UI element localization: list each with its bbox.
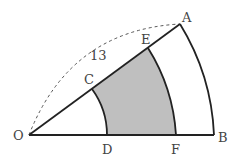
label-O: O <box>13 128 24 143</box>
label-A: A <box>181 10 192 25</box>
label-D: D <box>102 142 112 157</box>
label-E: E <box>141 32 151 47</box>
sector-diagram: O A B C D E F 13 <box>0 0 238 163</box>
arc-AB <box>180 24 214 135</box>
label-B: B <box>218 130 228 145</box>
label-F: F <box>171 142 180 157</box>
label-C: C <box>84 72 94 87</box>
label-arc-length: 13 <box>90 48 107 63</box>
